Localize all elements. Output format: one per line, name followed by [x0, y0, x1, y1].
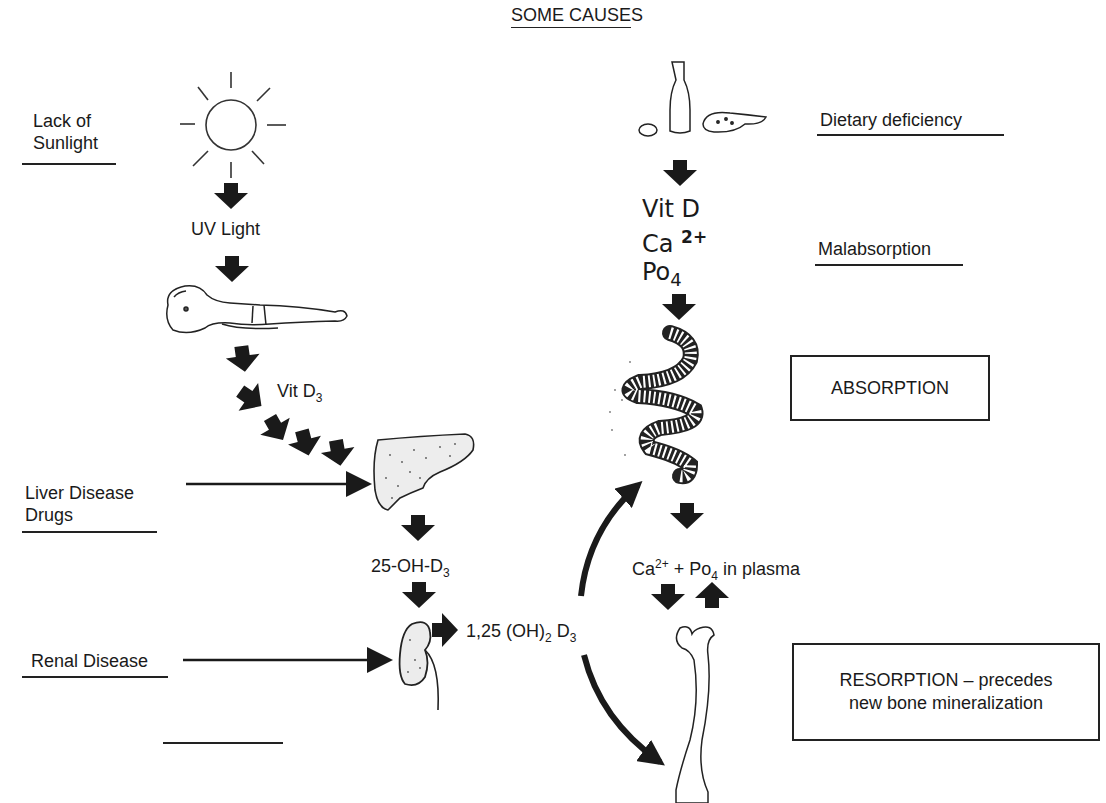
cause-line: Sunlight — [33, 132, 98, 154]
25-oh-d3-label: 25-OH-D3 — [371, 555, 450, 584]
block-arrow-down-icon — [670, 503, 704, 529]
plasma-ca: Ca — [632, 559, 655, 579]
block-arrow-down-icon — [224, 344, 261, 374]
subscript: 2 — [545, 631, 552, 645]
subscript: 4 — [670, 269, 681, 290]
cause-lack-of-sunlight: Lack of Sunlight — [33, 110, 98, 154]
milk-bottle-icon — [670, 62, 690, 133]
plasma-tail: in plasma — [718, 559, 800, 579]
block-arrow-diagonal-icon — [255, 409, 297, 449]
subscript: 3 — [316, 391, 323, 405]
vit-d3-base: Vit D — [277, 381, 316, 401]
po-base: Po — [642, 258, 670, 286]
cause-line: Lack of — [33, 110, 98, 132]
fish-icon — [703, 112, 766, 132]
plasma-label: Ca2+ + Po4 in plasma — [632, 553, 800, 587]
block-arrow-down-icon — [662, 294, 696, 320]
underline — [22, 163, 116, 165]
resorption-box: RESORPTION – precedes new bone mineraliz… — [792, 643, 1100, 741]
block-arrow-down-icon — [402, 582, 436, 608]
dihydroxy-pre: 1,25 (OH) — [466, 621, 545, 641]
egg-icon — [639, 124, 657, 136]
1-25-dihydroxy-d3-label: 1,25 (OH)2 D3 — [466, 620, 576, 649]
phosphate-label: Po4 — [642, 258, 707, 294]
block-arrow-diagonal-icon — [230, 377, 271, 420]
cause-renal-disease: Renal Disease — [31, 650, 148, 672]
block-arrow-down-icon — [401, 515, 435, 541]
underline — [22, 676, 168, 678]
subscript: 4 — [711, 569, 718, 583]
cause-liver-disease-drugs: Liver Disease Drugs — [25, 482, 134, 526]
superscript: 2+ — [681, 227, 707, 247]
absorption-box: ABSORPTION — [790, 355, 990, 421]
femur-bone-icon — [676, 627, 714, 803]
curved-arrow-to-intestine — [581, 485, 638, 596]
calcium-label: Ca 2+ — [642, 223, 707, 258]
resorption-line: RESORPTION – precedes — [839, 669, 1052, 692]
cause-line: Liver Disease — [25, 482, 134, 504]
underline — [22, 531, 157, 533]
diet-nutrients: Vit D Ca 2+ Po4 — [642, 195, 707, 294]
subscript: 3 — [570, 631, 577, 645]
vit-d-label: Vit D — [642, 195, 707, 223]
blank-underline — [163, 742, 283, 744]
block-arrow-diagonal-icon — [285, 426, 325, 460]
block-arrow-down-icon — [215, 256, 249, 282]
subscript: 3 — [443, 566, 450, 580]
vit-d3-label: Vit D3 — [277, 380, 322, 409]
liver-icon — [374, 434, 474, 510]
resorption-line: new bone mineralization — [839, 692, 1052, 715]
plasma-po: + Po — [669, 559, 712, 579]
cause-malabsorption: Malabsorption — [818, 238, 931, 260]
curved-arrow-to-bone — [584, 655, 660, 762]
absorption-label: ABSORPTION — [831, 377, 949, 400]
intestine-icon — [609, 333, 695, 476]
sun-icon — [180, 72, 286, 178]
hydroxy-base: 25-OH-D — [371, 556, 443, 576]
child-lying-icon — [167, 286, 347, 333]
superscript: 2+ — [655, 557, 669, 571]
dihydroxy-mid: D — [552, 621, 570, 641]
underline — [815, 264, 963, 266]
block-arrow-diagonal-icon — [319, 437, 357, 469]
block-arrow-down-icon — [663, 160, 697, 186]
underline — [817, 134, 1004, 136]
ca-base: Ca — [642, 230, 673, 258]
cause-dietary-deficiency: Dietary deficiency — [820, 109, 962, 131]
uv-light-label: UV Light — [191, 218, 260, 240]
block-arrow-right-icon — [432, 613, 458, 647]
block-arrow-down-icon — [651, 584, 685, 610]
cause-line: Drugs — [25, 504, 134, 526]
block-arrow-down-icon — [214, 183, 248, 209]
